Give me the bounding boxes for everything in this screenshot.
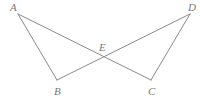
vertex-label-A: A [10,2,17,13]
geometry-figure: A B C D E [0,0,207,100]
vertex-label-B: B [54,86,61,97]
vertex-label-E: E [99,42,106,53]
vertex-label-C: C [148,86,155,97]
vertex-label-D: D [188,2,196,13]
